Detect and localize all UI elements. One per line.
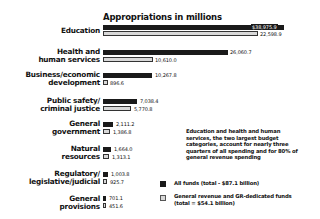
- chart-title: Appropriations in millions: [103, 12, 222, 22]
- category-label-natural-resources: Naturalresources: [61, 145, 100, 161]
- bar-general-provisions-all-funds: [103, 196, 106, 201]
- legend-swatch-all-funds: [160, 181, 166, 187]
- value-public-safety-all-funds: 7,038.4: [140, 98, 158, 104]
- bar-regulatory-all-funds: [103, 172, 108, 177]
- value-education-general-revenue: 22,598.9: [260, 31, 281, 37]
- value-business-general-revenue: 896.6: [110, 80, 124, 86]
- bar-general-government-general-revenue: [103, 129, 110, 134]
- legend-swatch-general-revenue: [160, 195, 166, 201]
- category-label-general-provisions: Generalprovisions: [60, 195, 101, 211]
- bar-business-general-revenue: [103, 80, 108, 85]
- bar-public-safety-all-funds: [103, 99, 137, 104]
- category-label-health: Health andhuman services: [38, 48, 100, 64]
- chart-annotation: Education and health and human services,…: [186, 128, 298, 161]
- bar-general-provisions-general-revenue: [103, 203, 106, 208]
- value-education-all-funds: $38,975.9: [251, 24, 278, 30]
- bar-natural-resources-all-funds: [103, 147, 111, 152]
- category-label-education: Education: [61, 27, 100, 35]
- bar-public-safety-general-revenue: [103, 106, 131, 111]
- value-public-safety-general-revenue: 5,770.8: [134, 106, 152, 112]
- legend-label-all-funds: All funds (total - $87.1 billion): [174, 180, 294, 187]
- bar-education-general-revenue: [103, 31, 258, 36]
- value-regulatory-all-funds: 1,003.8: [111, 171, 129, 177]
- bar-natural-resources-general-revenue: [103, 154, 109, 159]
- value-regulatory-general-revenue: 925.7: [110, 179, 124, 185]
- value-general-government-general-revenue: 1,386.8: [113, 129, 131, 135]
- value-natural-resources-general-revenue: 1,313.1: [112, 154, 130, 160]
- bar-health-all-funds: [103, 50, 228, 55]
- value-general-provisions-all-funds: 701.1: [109, 195, 123, 201]
- value-general-provisions-general-revenue: 451.6: [109, 203, 123, 209]
- category-label-general-government: Generalgovernment: [52, 120, 100, 136]
- bar-business-all-funds: [103, 73, 152, 78]
- value-natural-resources-all-funds: 1,664.0: [114, 146, 132, 152]
- bar-regulatory-general-revenue: [103, 179, 107, 184]
- value-business-all-funds: 10,267.8: [155, 72, 176, 78]
- category-label-business: Business/economicdevelopment: [25, 71, 100, 87]
- bar-health-general-revenue: [103, 57, 153, 62]
- legend-label-general-revenue: General revenue and GR-dedicated funds (…: [174, 193, 294, 206]
- category-label-public-safety: Public safety/criminal justice: [40, 97, 100, 113]
- bar-general-government-all-funds: [103, 122, 113, 127]
- value-health-general-revenue: 10,610.0: [155, 57, 176, 63]
- value-health-all-funds: 26,060.7: [230, 49, 251, 55]
- value-general-government-all-funds: 2,111.2: [116, 121, 134, 127]
- category-label-regulatory: Regulatory/legislative/judicial: [29, 170, 100, 186]
